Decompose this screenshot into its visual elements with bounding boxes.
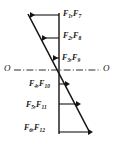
force-label-f6-f12: F6,F12: [24, 124, 45, 132]
force-distribution-diagram: F1,F7 F2,F8 F3,F9 F4,F10 F5,F11 F6,F12 O…: [0, 0, 115, 147]
diagram-canvas: [0, 0, 115, 147]
force-label-f1-f7: F1,F7: [63, 10, 81, 18]
force-label-f2-f8: F2,F8: [63, 32, 81, 40]
force-label-f3-f9: F3,F9: [62, 54, 80, 62]
force-label-f4-f10: F4,F10: [29, 80, 50, 88]
axis-label-o-left: O: [4, 64, 11, 73]
force-label-f5-f11: F5,F11: [26, 101, 47, 109]
axis-label-o-right: O: [103, 64, 110, 73]
